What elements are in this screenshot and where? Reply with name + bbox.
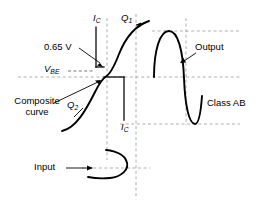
output-waveform-label: Output xyxy=(195,42,224,53)
input-waveform xyxy=(88,150,127,178)
ic-top-axis-label: IC xyxy=(93,13,101,24)
bias-voltage-label: 0.65 V xyxy=(44,42,71,53)
class-ab-transfer-characteristic-figure: IC IC Q1 Q2 VBE 0.65 V Composite curve I… xyxy=(0,0,274,217)
arrowhead-input xyxy=(87,166,93,171)
vbe-axis-label: VBE xyxy=(44,64,59,75)
composite-curve-label: Composite curve xyxy=(4,96,70,118)
input-waveform-label: Input xyxy=(34,162,55,173)
q1-branch-label: Q1 xyxy=(121,13,132,24)
class-ab-label: Class AB xyxy=(207,98,246,109)
callout-leaders xyxy=(54,23,196,168)
leader-bias-voltage xyxy=(79,48,100,63)
callout-arrowheads xyxy=(87,23,186,171)
ic-bottom-axis-label: IC xyxy=(121,122,129,133)
input-waveform-path xyxy=(88,150,127,178)
